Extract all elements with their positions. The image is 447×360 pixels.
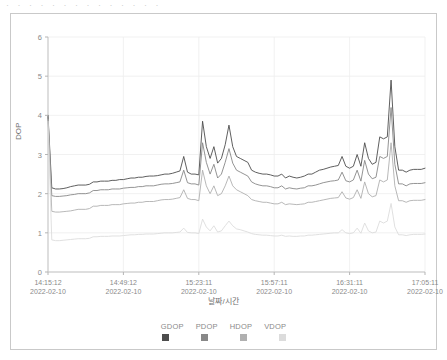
legend-label-pdop: PDOP xyxy=(196,322,218,331)
legend-label-row: GDOPPDOPHDOPVDOP xyxy=(0,322,447,331)
x-axis-title: 날짜/시간 xyxy=(0,295,447,306)
legend-label-gdop: GDOP xyxy=(161,322,184,331)
chart-legend: GDOPPDOPHDOPVDOP xyxy=(0,322,447,341)
y-tick-0: 0 xyxy=(24,268,42,277)
y-tick-1: 1 xyxy=(24,229,42,238)
series-lines xyxy=(48,80,425,241)
x-tick-2: 15:23:112022-02-10 xyxy=(169,278,229,296)
legend-swatch-vdop xyxy=(279,334,286,341)
x-tick-time: 14:49:12 xyxy=(93,278,153,287)
y-axis-title: DOP xyxy=(14,123,23,140)
x-tick-date: 2022-02-10 xyxy=(244,287,304,296)
x-tick-time: 16:31:11 xyxy=(320,278,380,287)
x-tick-time: 17:05:11 xyxy=(395,278,447,287)
x-tick-5: 17:05:112022-02-10 xyxy=(395,278,447,296)
y-tick-2: 2 xyxy=(24,190,42,199)
x-tick-date: 2022-02-10 xyxy=(169,287,229,296)
x-tick-time: 14:15:12 xyxy=(18,278,78,287)
screenshot-root: · · · · · · · · · · · · · · DOP 날짜/시간 01… xyxy=(0,0,447,360)
x-tick-date: 2022-02-10 xyxy=(18,287,78,296)
y-tick-4: 4 xyxy=(24,111,42,120)
y-tick-3: 3 xyxy=(24,151,42,160)
x-tick-time: 15:23:11 xyxy=(169,278,229,287)
x-tick-4: 16:31:112022-02-10 xyxy=(320,278,380,296)
x-tick-3: 15:57:112022-02-10 xyxy=(244,278,304,296)
x-tick-time: 15:57:11 xyxy=(244,278,304,287)
x-tick-0: 14:15:122022-02-10 xyxy=(18,278,78,296)
x-tick-date: 2022-02-10 xyxy=(93,287,153,296)
legend-label-hdop: HDOP xyxy=(230,322,252,331)
legend-swatch-hdop xyxy=(240,334,247,341)
legend-swatch-pdop xyxy=(201,334,208,341)
x-tick-date: 2022-02-10 xyxy=(395,287,447,296)
x-tick-date: 2022-02-10 xyxy=(320,287,380,296)
legend-swatch-row xyxy=(0,334,447,341)
x-tick-1: 14:49:122022-02-10 xyxy=(93,278,153,296)
chart-plot-area xyxy=(0,0,447,360)
y-tick-6: 6 xyxy=(24,33,42,42)
legend-swatch-gdop xyxy=(162,334,169,341)
legend-label-vdop: VDOP xyxy=(264,322,286,331)
dop-line-chart xyxy=(0,0,447,360)
y-tick-5: 5 xyxy=(24,72,42,81)
